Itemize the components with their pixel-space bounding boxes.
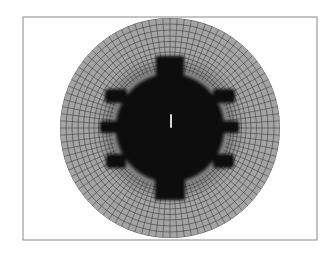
mesh-figure [0,0,336,256]
bottom-tooth [155,170,185,200]
center-slit [170,114,172,128]
left-middle-lug [100,121,120,133]
right-lower-lug [213,154,234,168]
right-middle-lug [220,121,239,133]
left-upper-lug [105,89,127,103]
left-lower-lug [106,154,126,168]
right-upper-lug [213,89,235,103]
top-tooth [156,56,184,82]
inner-core [116,74,224,182]
